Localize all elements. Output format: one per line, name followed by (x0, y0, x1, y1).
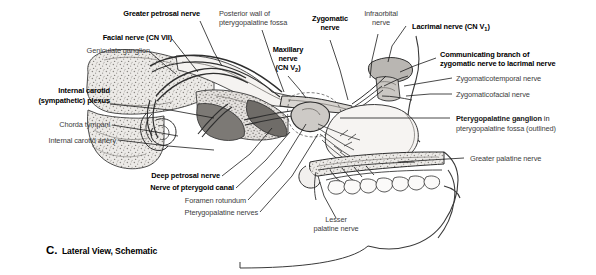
label-pterygopalatine-fossa-outlined: pterygopalatine fossa (outlined) (456, 124, 556, 133)
label-communicating-branch-line1: Communicating branch of (440, 50, 529, 59)
label-zygomatic-nerve-line2: nerve (304, 23, 356, 32)
pterygopalatine-ganglion-in: in (542, 114, 550, 123)
caption-letter: C. (46, 244, 58, 256)
figure-caption: C. Lateral View, Schematic (46, 240, 157, 258)
label-infraorbital-nerve-line1: Infraorbital (358, 9, 404, 18)
label-internal-carotid-plexus-line1: Internal carotid (6, 86, 110, 95)
label-chorda-tympani: Chorda tympani (22, 120, 110, 129)
label-zygomaticofacial-nerve: Zygomaticofacial nerve (456, 90, 530, 99)
label-deep-petrosal-nerve: Deep petrosal nerve (118, 171, 220, 180)
lacrimal-subscript: 1 (484, 26, 487, 32)
label-zygomatic-nerve-line1: Zygomatic (304, 14, 356, 23)
pterygopalatine-ganglion-bold: Pterygopalatine ganglion (456, 114, 542, 123)
label-facial-nerve: Facial nerve (CN VII) (72, 33, 172, 42)
caption-text: Lateral View, Schematic (62, 246, 157, 256)
label-geniculate-ganglion: Geniculate ganglion (48, 46, 150, 55)
label-lacrimal-nerve: Lacrimal nerve (CN V1) (412, 22, 490, 32)
maxillary-cn-subscript: 2 (295, 67, 298, 73)
label-maxillary-nerve-line3: (CN V2) (262, 63, 314, 73)
label-infraorbital-nerve-line2: nerve (358, 18, 404, 27)
upper-teeth (328, 176, 440, 194)
label-posterior-wall-line2: pterygopalatine fossa (219, 18, 287, 27)
label-posterior-wall-line1: Posterior wall of (219, 9, 270, 18)
maxillary-cn-prefix: (CN V (275, 63, 295, 72)
label-pterygopalatine-nerves: Pterygopalatine nerves (134, 208, 258, 217)
label-foramen-rotundum: Foramen rotundum (144, 196, 246, 205)
palate-maxilla-group (299, 152, 444, 200)
label-lesser-palatine-nerve-line1: Lesser (308, 215, 364, 224)
lacrimal-prefix: Lacrimal nerve (CN V (412, 22, 484, 31)
lacrimal-suffix: ) (487, 22, 489, 31)
label-lesser-palatine-nerve-line2: palatine nerve (300, 224, 372, 233)
label-maxillary-nerve-line1: Maxillary (262, 45, 314, 54)
label-communicating-branch-line2: zygomatic nerve to lacrimal nerve (440, 59, 555, 68)
label-zygomaticotemporal-nerve: Zygomaticotemporal nerve (456, 74, 541, 83)
label-greater-palatine-nerve: Greater palatine nerve (470, 154, 541, 163)
anatomical-figure: Greater petrosal nerve Facial nerve (CN … (0, 0, 596, 275)
label-greater-petrosal-nerve: Greater petrosal nerve (100, 9, 200, 18)
label-internal-carotid-artery: Internal carotid artery (6, 136, 116, 145)
label-nerve-of-pterygoid-canal: Nerve of pterygoid canal (104, 183, 234, 192)
label-maxillary-nerve-line2: nerve (262, 54, 314, 63)
orbit-zygomatic-group (352, 58, 413, 113)
maxillary-cn-suffix: ) (298, 63, 300, 72)
label-pterygopalatine-ganglion: Pterygopalatine ganglion in (456, 114, 549, 123)
label-internal-carotid-plexus-line2: (sympathetic) plexus (2, 96, 110, 105)
